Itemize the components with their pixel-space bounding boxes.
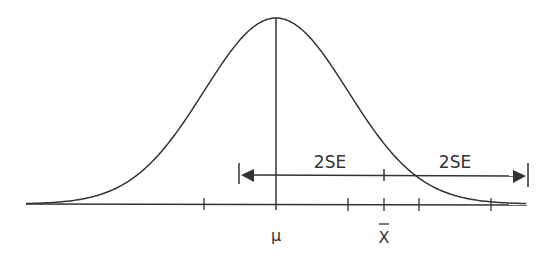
- left-2se-label: 2SE: [314, 152, 346, 172]
- mean-label: μ: [271, 226, 281, 245]
- two-se-interval-arrow: [239, 163, 528, 187]
- sample-mean-label: X: [379, 228, 390, 247]
- normal-curve-diagram: 2SE 2SE μ X: [0, 0, 551, 257]
- right-2se-label: 2SE: [439, 152, 471, 172]
